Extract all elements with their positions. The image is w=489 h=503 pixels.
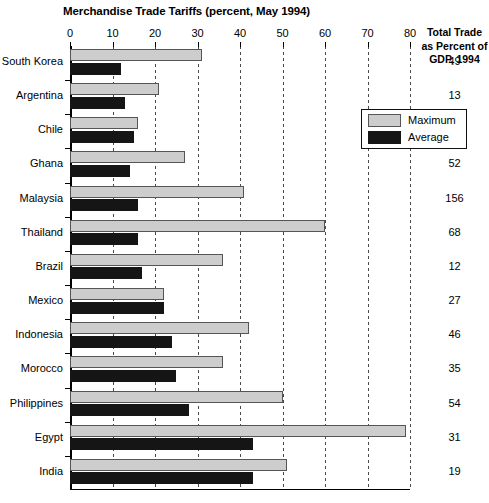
axis-category-tick <box>65 388 71 389</box>
gdp-value-india: 19 <box>420 465 489 477</box>
category-label-argentina: Argentina <box>0 89 63 101</box>
axis-category-tick <box>65 251 71 252</box>
bar-maximum-south-korea <box>70 49 202 61</box>
gdp-value-philippines: 54 <box>420 397 489 409</box>
side-column-header-line-2: as Percent of <box>420 40 489 54</box>
gdp-value-argentina: 13 <box>420 89 489 101</box>
category-label-malaysia: Malaysia <box>0 192 63 204</box>
bar-maximum-indonesia <box>70 322 249 334</box>
gdp-value-brazil: 12 <box>420 260 489 272</box>
legend: Maximum Average <box>361 109 467 149</box>
x-axis-tick-0: 0 <box>55 27 85 39</box>
bar-average-mexico <box>70 302 164 314</box>
bar-average-egypt <box>70 438 253 450</box>
bar-row <box>70 80 410 114</box>
axis-category-tick <box>65 80 71 81</box>
bar-row <box>70 148 410 182</box>
x-axis-tick-40: 40 <box>225 27 255 39</box>
category-label-south-korea: South Korea <box>0 55 63 67</box>
chart-title: Merchandise Trade Tariffs (percent, May … <box>63 5 310 17</box>
tariffs-bar-chart: Merchandise Trade Tariffs (percent, May … <box>0 0 489 503</box>
category-label-chile: Chile <box>0 123 63 135</box>
bar-row <box>70 285 410 319</box>
bar-average-ghana <box>70 165 130 177</box>
bar-row <box>70 353 410 387</box>
bar-maximum-mexico <box>70 288 164 300</box>
category-label-egypt: Egypt <box>0 431 63 443</box>
category-label-india: India <box>0 465 63 477</box>
gdp-value-egypt: 31 <box>420 431 489 443</box>
gdp-value-thailand: 68 <box>420 226 489 238</box>
bar-average-india <box>70 472 253 484</box>
side-column-header-line-1: Total Trade <box>420 26 489 40</box>
category-label-morocco: Morocco <box>0 362 63 374</box>
bar-maximum-morocco <box>70 356 223 368</box>
bar-row <box>70 456 410 490</box>
bar-row <box>70 183 410 217</box>
bar-row <box>70 388 410 422</box>
bar-maximum-brazil <box>70 254 223 266</box>
axis-category-tick <box>65 319 71 320</box>
bar-maximum-philippines <box>70 391 283 403</box>
gdp-value-morocco: 35 <box>420 362 489 374</box>
x-axis-tick-30: 30 <box>183 27 213 39</box>
x-axis-tick-80: 80 <box>395 27 425 39</box>
bar-average-argentina <box>70 97 125 109</box>
gdp-value-indonesia: 46 <box>420 328 489 340</box>
bar-maximum-malaysia <box>70 186 244 198</box>
bar-maximum-ghana <box>70 151 185 163</box>
x-axis-tick-60: 60 <box>310 27 340 39</box>
bar-maximum-india <box>70 459 287 471</box>
legend-swatch-maximum-icon <box>368 114 401 127</box>
bar-maximum-egypt <box>70 425 406 437</box>
legend-label-average: Average <box>408 131 449 143</box>
category-label-brazil: Brazil <box>0 260 63 272</box>
legend-label-maximum: Maximum <box>408 114 456 126</box>
axis-category-tick <box>65 353 71 354</box>
bar-maximum-argentina <box>70 83 159 95</box>
axis-category-tick <box>65 456 71 457</box>
bar-average-malaysia <box>70 199 138 211</box>
bar-row <box>70 319 410 353</box>
bar-average-brazil <box>70 267 142 279</box>
bar-row <box>70 46 410 80</box>
bar-average-indonesia <box>70 336 172 348</box>
bar-maximum-chile <box>70 117 138 129</box>
category-label-ghana: Ghana <box>0 157 63 169</box>
axis-category-tick <box>65 422 71 423</box>
gdp-value-south-korea: 49 <box>420 55 489 67</box>
bar-row <box>70 114 410 148</box>
x-axis-tick-50: 50 <box>268 27 298 39</box>
bar-maximum-thailand <box>70 220 325 232</box>
axis-category-tick <box>65 148 71 149</box>
axis-category-tick <box>65 285 71 286</box>
tick-mark-80 <box>410 42 411 47</box>
bar-average-thailand <box>70 233 138 245</box>
axis-category-tick <box>65 114 71 115</box>
plot-area: Maximum Average <box>70 46 410 490</box>
category-label-philippines: Philippines <box>0 397 63 409</box>
axis-category-tick <box>65 217 71 218</box>
bar-row <box>70 422 410 456</box>
bar-row <box>70 251 410 285</box>
category-label-mexico: Mexico <box>0 294 63 306</box>
x-axis-tick-70: 70 <box>353 27 383 39</box>
category-label-indonesia: Indonesia <box>0 328 63 340</box>
gdp-value-ghana: 52 <box>420 157 489 169</box>
bar-average-philippines <box>70 404 189 416</box>
gdp-value-malaysia: 156 <box>420 192 489 204</box>
bar-row <box>70 217 410 251</box>
legend-swatch-average-icon <box>368 131 401 144</box>
bar-average-morocco <box>70 370 176 382</box>
axis-category-tick <box>65 183 71 184</box>
bar-average-south-korea <box>70 63 121 75</box>
gdp-value-mexico: 27 <box>420 294 489 306</box>
x-axis-tick-10: 10 <box>98 27 128 39</box>
x-axis-tick-20: 20 <box>140 27 170 39</box>
bar-average-chile <box>70 131 134 143</box>
category-label-thailand: Thailand <box>0 226 63 238</box>
